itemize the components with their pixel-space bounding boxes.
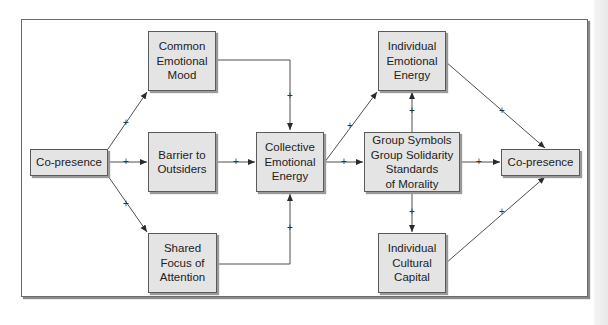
node-label: Shared xyxy=(160,241,205,256)
edge-shared-focus-to-collective xyxy=(217,194,290,264)
sign-label: + xyxy=(341,156,347,167)
node-label: Cultural xyxy=(388,256,437,271)
sign-label: + xyxy=(123,156,129,167)
edge-cultural-capital-to-copresence-right xyxy=(446,177,545,263)
node-individual-emotional-energy: Individual Emotional Energy xyxy=(378,31,446,91)
sign-label: + xyxy=(233,156,239,167)
node-label: Emotional xyxy=(386,54,437,69)
sign-label: + xyxy=(409,105,415,116)
sign-label: + xyxy=(409,206,415,217)
sign-label: + xyxy=(499,206,505,217)
node-label: Group Symbols xyxy=(371,133,453,148)
node-label: Focus of xyxy=(160,256,205,271)
node-barrier-to-outsiders: Barrier to Outsiders xyxy=(148,132,216,192)
node-label: Group Solidarity xyxy=(371,148,453,163)
node-common-emotional-mood: Common Emotional Mood xyxy=(148,31,216,91)
node-label: Energy xyxy=(264,169,315,184)
node-label: Barrier to xyxy=(157,148,206,163)
sign-label: + xyxy=(287,222,293,233)
node-label: Capital xyxy=(388,270,437,285)
node-group-symbols-solidarity-morality: Group Symbols Group Solidarity Standards… xyxy=(364,132,460,192)
node-individual-cultural-capital: Individual Cultural Capital xyxy=(378,233,446,293)
node-label: Mood xyxy=(156,68,207,83)
node-copresence-left: Co-presence xyxy=(30,149,108,176)
edge-common-mood-to-collective xyxy=(216,60,290,130)
node-label: Energy xyxy=(386,68,437,83)
node-label: Collective xyxy=(264,140,315,155)
node-shared-focus-of-attention: Shared Focus of Attention xyxy=(148,233,217,293)
sign-label: + xyxy=(123,198,129,209)
edge-individual-energy-to-copresence-right xyxy=(446,62,545,148)
sign-label: + xyxy=(347,120,353,131)
node-label: Standards xyxy=(371,162,453,177)
node-label: Individual xyxy=(386,39,437,54)
node-label: Attention xyxy=(160,270,205,285)
node-label: Outsiders xyxy=(157,162,206,177)
node-label: of Morality xyxy=(371,177,453,192)
sign-label: + xyxy=(287,90,293,101)
node-copresence-right: Co-presence xyxy=(501,149,580,176)
node-collective-emotional-energy: Collective Emotional Energy xyxy=(256,132,324,192)
node-label: Co-presence xyxy=(508,155,574,170)
node-label: Co-presence xyxy=(36,155,102,170)
sign-label: + xyxy=(123,117,129,128)
node-label: Emotional xyxy=(264,155,315,170)
sign-label: + xyxy=(476,156,482,167)
node-label: Emotional xyxy=(156,54,207,69)
node-label: Common xyxy=(156,39,207,54)
sign-label: + xyxy=(499,105,505,116)
node-label: Individual xyxy=(388,241,437,256)
